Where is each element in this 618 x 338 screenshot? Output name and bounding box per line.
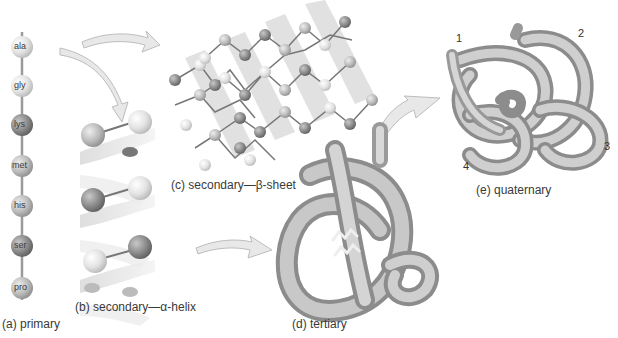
protein-structure-figure — [0, 0, 618, 338]
residue-label-gly: gly — [14, 80, 26, 90]
caption-tertiary: (d) tertiary — [292, 317, 347, 331]
residue-label-ser: ser — [14, 240, 27, 250]
quaternary-structure-model — [452, 28, 600, 168]
tertiary-structure-model — [287, 130, 430, 311]
subunit-number-4: 4 — [463, 160, 469, 172]
alpha-helix-model — [80, 110, 155, 326]
arrow-primary-to-helix — [60, 48, 128, 122]
residue-label-pro: pro — [14, 282, 27, 292]
caption-alpha-helix: (b) secondary—α-helix — [75, 300, 196, 314]
arrow-primary-to-sheet — [82, 31, 160, 52]
residue-label-lys: lys — [14, 119, 25, 129]
subunit-number-1: 1 — [456, 32, 462, 44]
residue-label-met: met — [12, 160, 27, 170]
caption-quaternary: (e) quaternary — [476, 183, 551, 197]
beta-sheet-model — [169, 0, 378, 171]
residue-label-ala: ala — [14, 41, 26, 51]
arrow-helix-to-tertiary — [196, 236, 272, 258]
caption-beta-sheet: (c) secondary—β-sheet — [171, 178, 296, 192]
caption-primary: (a) primary — [2, 317, 60, 331]
subunit-number-2: 2 — [578, 27, 584, 39]
residue-label-his: his — [14, 200, 26, 210]
subunit-number-3: 3 — [604, 140, 610, 152]
